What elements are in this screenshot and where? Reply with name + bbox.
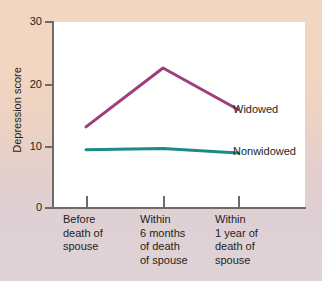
y-tick-mark-10	[45, 146, 53, 148]
y-axis-line	[52, 21, 54, 209]
legend-label-nonwidowed: Nonwidowed	[233, 145, 296, 157]
y-tick-label-0: 0	[16, 202, 42, 213]
x-category-label-0: Before death of spouse	[63, 213, 103, 254]
x-axis-line	[52, 207, 306, 209]
x-tick-mark-1	[163, 196, 165, 208]
x-tick-mark-2	[238, 196, 240, 208]
y-axis-title: Depression score	[11, 50, 23, 170]
x-tick-mark-0	[86, 196, 88, 208]
plot-area	[53, 22, 305, 208]
y-tick-mark-20	[45, 84, 53, 86]
x-category-label-2: Within 1 year of death of spouse	[215, 213, 258, 267]
y-tick-mark-30	[45, 21, 53, 23]
chart-figure: 30 20 10 0 Depression score Before death…	[0, 0, 322, 281]
legend-label-widowed: Widowed	[233, 103, 278, 115]
y-tick-label-30: 30	[16, 16, 42, 27]
y-tick-mark-0	[45, 207, 53, 209]
x-category-label-1: Within 6 months of death of spouse	[140, 213, 188, 267]
